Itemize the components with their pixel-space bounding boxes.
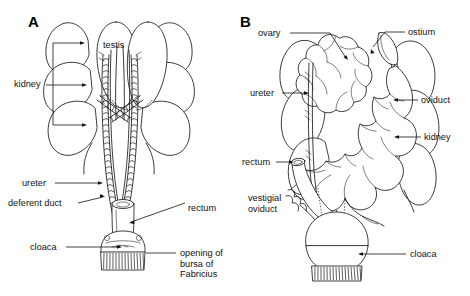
label-ovary-b: ovary	[258, 28, 281, 38]
cloaca-a-vent	[101, 252, 145, 270]
label-vestigial-oviduct-line-1: vestigial	[248, 193, 281, 203]
label-deferent-duct-a: deferent duct	[8, 198, 62, 208]
label-bursa-line-1: opening of	[180, 248, 223, 258]
label-vestigial-oviduct-line-2: oviduct	[248, 204, 278, 214]
cloaca-a	[101, 231, 145, 270]
label-bursa-line-2: bursa of	[180, 259, 214, 269]
panel-a-letter: A	[28, 13, 39, 30]
label-kidney-b: kidney	[424, 132, 451, 142]
label-kidney-a: kidney	[14, 79, 41, 89]
label-ureter-a: ureter	[22, 178, 46, 188]
label-rectum-b: rectum	[242, 157, 270, 167]
cloaca-b	[306, 212, 369, 281]
panel-b-letter: B	[240, 13, 251, 30]
label-testis-a: testis	[103, 40, 125, 50]
label-ureter-b: ureter	[250, 88, 274, 98]
label-rectum-a: rectum	[188, 203, 216, 213]
label-bursa-line-3: Fabricius	[180, 269, 218, 279]
label-ostium-b: ostium	[408, 27, 435, 37]
label-cloaca-a: cloaca	[30, 242, 57, 252]
label-oviduct-b: oviduct	[421, 95, 451, 105]
label-cloaca-b: cloaca	[410, 249, 437, 259]
figure-container: A testis kidney ureter deferent duct clo…	[0, 0, 470, 296]
anatomy-figure: A testis kidney ureter deferent duct clo…	[0, 0, 470, 296]
